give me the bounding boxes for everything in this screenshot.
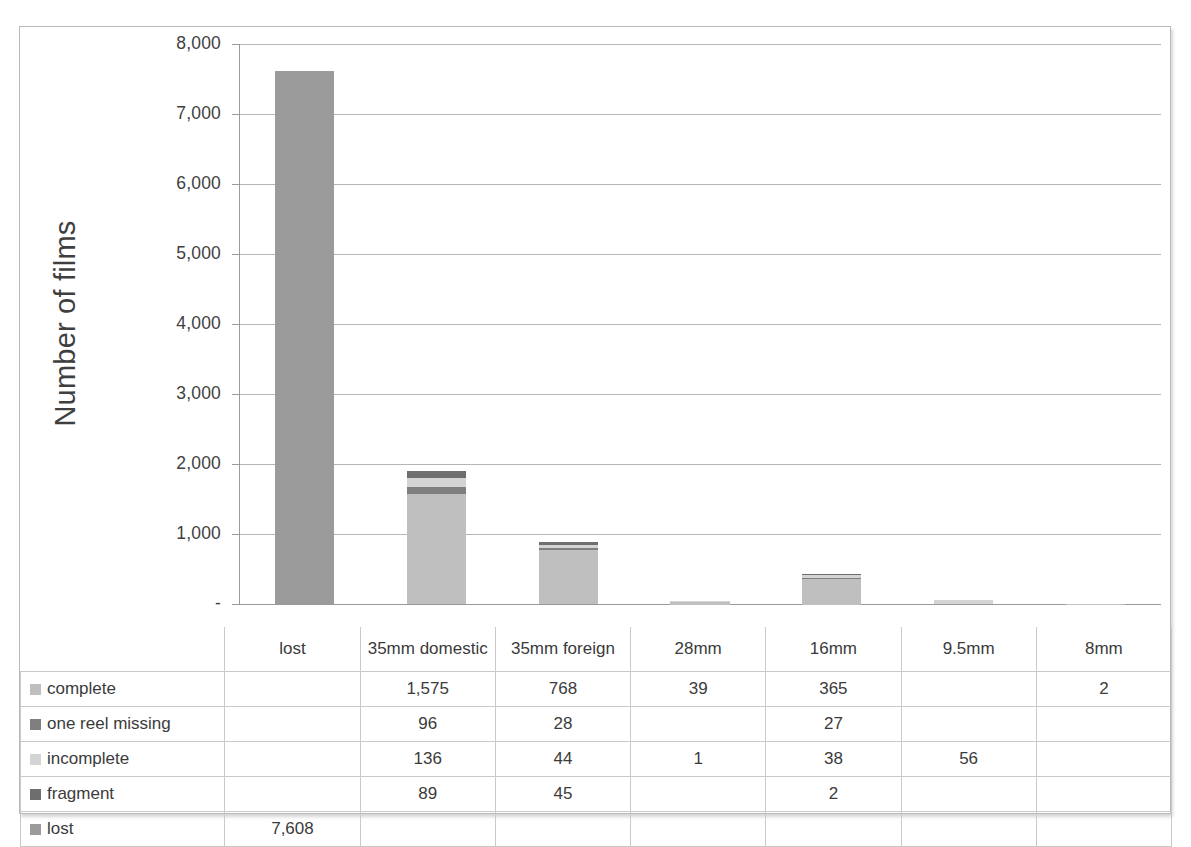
legend-series-label: complete (47, 679, 116, 699)
legend-swatch-icon (30, 684, 41, 695)
table-cell: 7,608 (225, 812, 360, 847)
gridline (239, 394, 1161, 395)
bar-segment (802, 579, 861, 605)
table-cell (901, 777, 1036, 812)
y-axis-tick-label: 2,000 (135, 453, 221, 474)
y-axis-tick-mark (232, 254, 239, 255)
legend-swatch-icon (30, 719, 41, 730)
table-cell (766, 812, 901, 847)
legend-swatch-icon (30, 754, 41, 765)
table-column-header: 35mm domestic (360, 627, 495, 672)
table-cell: 2 (1036, 672, 1171, 707)
legend-key-cell: lost (21, 812, 225, 847)
table-row: fragment89452 (21, 777, 1172, 812)
y-axis-tick-label: 6,000 (135, 173, 221, 194)
table-cell: 39 (631, 672, 766, 707)
bar-segment (275, 71, 334, 604)
table-body: complete1,575768393652one reel missing96… (21, 672, 1172, 847)
table-cell (1036, 777, 1171, 812)
bar-segment (934, 600, 993, 604)
y-axis-tick-mark (232, 604, 239, 605)
y-axis-tick-mark (232, 44, 239, 45)
legend-series-label: incomplete (47, 749, 129, 769)
y-axis-tick-mark (232, 324, 239, 325)
gridline (239, 44, 1161, 45)
table-cell: 28 (495, 707, 630, 742)
bar-segment (670, 602, 729, 605)
table-cell: 96 (360, 707, 495, 742)
y-axis-title: Number of films (49, 159, 82, 489)
table-cell (360, 812, 495, 847)
plot-area: Number of films 8,0007,0006,0005,0004,00… (20, 27, 1172, 627)
table-column-header: 8mm (1036, 627, 1171, 672)
table-cell: 27 (766, 707, 901, 742)
table-cell: 1 (631, 742, 766, 777)
table-cell: 38 (766, 742, 901, 777)
table-cell: 89 (360, 777, 495, 812)
table-cell: 44 (495, 742, 630, 777)
y-axis-tick-mark (232, 464, 239, 465)
bar-column (275, 71, 334, 604)
gridline (239, 464, 1161, 465)
table-cell (1036, 707, 1171, 742)
gridline (239, 184, 1161, 185)
chart-data-table: lost35mm domestic35mm foreign28mm16mm9.5… (20, 627, 1172, 847)
table-cell (901, 812, 1036, 847)
table-column-header: 28mm (631, 627, 766, 672)
legend-swatch-icon (30, 824, 41, 835)
bar-segment (407, 478, 466, 488)
y-axis-tick-label: 1,000 (135, 523, 221, 544)
legend-swatch-icon (30, 789, 41, 800)
table-row: one reel missing962827 (21, 707, 1172, 742)
table-cell (631, 707, 766, 742)
y-axis-tick-mark (232, 184, 239, 185)
legend-series-label: lost (47, 819, 73, 839)
legend-key-cell: fragment (21, 777, 225, 812)
table-row: lost7,608 (21, 812, 1172, 847)
table-cell: 56 (901, 742, 1036, 777)
gridline (239, 114, 1161, 115)
table-cell (225, 777, 360, 812)
table-cell: 1,575 (360, 672, 495, 707)
table-cell: 2 (766, 777, 901, 812)
table-cell (225, 672, 360, 707)
bar-segment (407, 487, 466, 494)
table-cell (631, 812, 766, 847)
bar-segment (407, 494, 466, 604)
bar-segment (1066, 604, 1125, 605)
bar-column (670, 601, 729, 604)
table-column-header: 35mm foreign (495, 627, 630, 672)
y-axis-tick-mark (232, 534, 239, 535)
table-cell (1036, 742, 1171, 777)
table-cell (1036, 812, 1171, 847)
y-axis-tick-label: 8,000 (135, 33, 221, 54)
table-column-header: lost (225, 627, 360, 672)
y-axis-tick-label: 4,000 (135, 313, 221, 334)
legend-key-cell: incomplete (21, 742, 225, 777)
table-cell: 136 (360, 742, 495, 777)
table-cell (901, 672, 1036, 707)
table-column-header: 16mm (766, 627, 901, 672)
chart-frame: Number of films 8,0007,0006,0005,0004,00… (19, 26, 1171, 814)
legend-key-cell: one reel missing (21, 707, 225, 742)
table-column-header: 9.5mm (901, 627, 1036, 672)
table-row: complete1,575768393652 (21, 672, 1172, 707)
y-axis-line (239, 44, 240, 604)
gridline (239, 324, 1161, 325)
y-axis-tick-label: - (135, 593, 221, 614)
table-cell: 365 (766, 672, 901, 707)
y-axis-tick-label: 3,000 (135, 383, 221, 404)
table-cell (901, 707, 1036, 742)
y-axis-tick-mark (232, 114, 239, 115)
table-header-row: lost35mm domestic35mm foreign28mm16mm9.5… (21, 627, 1172, 672)
table-cell: 768 (495, 672, 630, 707)
legend-series-label: fragment (47, 784, 114, 804)
bar-segment (539, 550, 598, 604)
y-axis-tick-label: 5,000 (135, 243, 221, 264)
gridline (239, 254, 1161, 255)
bar-column (539, 542, 598, 604)
table-cell: 45 (495, 777, 630, 812)
bar-column (934, 600, 993, 604)
legend-series-label: one reel missing (47, 714, 171, 734)
gridline (239, 534, 1161, 535)
